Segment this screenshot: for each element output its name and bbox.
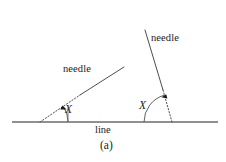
geometry-diagram [0, 0, 226, 162]
figure-container: needle needle X X line (a) [0, 0, 226, 162]
angle-right-label: X [139, 100, 146, 112]
figure-caption: (a) [100, 140, 113, 152]
needle-right-arrowhead [162, 94, 168, 98]
needle-right-dotted-extension [163, 90, 172, 122]
needle-left-label: needle [63, 64, 91, 75]
baseline-label: line [95, 125, 111, 136]
needle-right-label: needle [151, 33, 179, 44]
needle-left-dotted-extension [40, 95, 80, 122]
needle-right-angle-arc [144, 95, 164, 122]
angle-left-label: X [65, 104, 72, 116]
